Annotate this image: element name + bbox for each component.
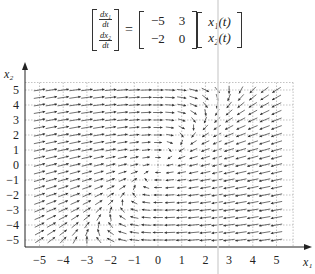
svg-text:1: 1: [13, 143, 19, 157]
svg-text:2: 2: [202, 253, 208, 267]
matrix-entry-a12: 3: [179, 13, 186, 29]
svg-text:−5: −5: [6, 233, 19, 247]
svg-text:3: 3: [13, 113, 19, 127]
coefficient-matrix: −5 3 −2 0: [139, 11, 197, 49]
state-vector: x₁(t) x₂(t): [197, 12, 242, 48]
svg-text:x₂: x₂: [3, 67, 14, 81]
svg-text:1: 1: [179, 253, 185, 267]
system-equation: dx₁ dt dx₂ dt = −5 3 −2 0 x₁(t) x₂(t): [92, 6, 242, 54]
svg-text:−4: −4: [6, 218, 19, 232]
dx1-dt: dx₁ dt: [99, 10, 112, 29]
svg-text:−1: −1: [128, 253, 141, 267]
state-x1: x₁(t): [208, 14, 231, 30]
svg-text:0: 0: [155, 253, 161, 267]
matrix-entry-a21: −2: [151, 31, 165, 47]
svg-text:−1: −1: [6, 173, 19, 187]
svg-text:3: 3: [226, 253, 232, 267]
equals-sign: =: [125, 22, 133, 38]
vertical-guide-line: [217, 0, 219, 274]
svg-text:2: 2: [13, 128, 19, 142]
state-x2: x₂(t): [208, 30, 231, 46]
svg-text:−4: −4: [57, 253, 70, 267]
derivative-vector: dx₁ dt dx₂ dt: [92, 9, 119, 51]
svg-text:5: 5: [274, 253, 280, 267]
svg-text:−3: −3: [81, 253, 94, 267]
svg-text:−2: −2: [6, 188, 19, 202]
dx2-dt: dx₂ dt: [99, 31, 112, 50]
svg-text:0: 0: [13, 158, 19, 172]
svg-text:4: 4: [250, 253, 256, 267]
matrix-entry-a22: 0: [179, 31, 186, 47]
svg-text:5: 5: [13, 83, 19, 97]
direction-field-plot: −5−4−3−2−1012345−5−4−3−2−1012345x₁x₂: [0, 60, 315, 274]
matrix-entry-a11: −5: [151, 13, 165, 29]
svg-text:−5: −5: [33, 253, 46, 267]
svg-text:−3: −3: [6, 203, 19, 217]
svg-text:4: 4: [13, 98, 19, 112]
svg-text:x₁: x₁: [302, 255, 313, 269]
svg-text:−2: −2: [104, 253, 117, 267]
